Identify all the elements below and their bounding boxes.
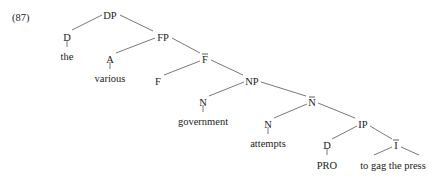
tree-node-a: A <box>106 54 114 65</box>
tree-edge <box>332 126 357 139</box>
tree-edge <box>172 38 200 53</box>
example-number: (87) <box>12 12 30 24</box>
tree-node-ip: IP <box>358 119 367 130</box>
tree-node-fbar: F <box>202 54 208 65</box>
tree-edge <box>401 147 419 155</box>
tree-edge <box>164 61 200 75</box>
tree-node-n1: N <box>199 97 207 108</box>
tree-edge <box>72 15 102 30</box>
tree-edge <box>209 82 244 96</box>
tree-terminal: attempts <box>250 138 286 149</box>
tree-edge <box>318 103 355 118</box>
tree-node-f: F <box>155 76 161 87</box>
tree-edges <box>67 15 419 155</box>
tree-node-ibar: I <box>394 140 398 151</box>
tree-edge <box>211 60 243 75</box>
tree-node-d2: D <box>323 140 331 151</box>
syntax-tree: (87) DPDtheFPAvariousFFNPNgovernmentNNat… <box>0 0 442 180</box>
tree-edge <box>116 38 155 53</box>
tree-node-dp: DP <box>103 10 117 21</box>
tree-edge <box>374 147 392 155</box>
tree-terminal: various <box>95 73 126 84</box>
tree-node-np: NP <box>245 76 259 87</box>
tree-edge <box>120 15 153 31</box>
tree-terminal: the <box>61 51 74 62</box>
tree-terminal: government <box>178 116 228 127</box>
tree-node-fp: FP <box>157 32 169 43</box>
tree-node-nbar: N <box>308 97 316 108</box>
tree-terminal: to gag the press <box>360 160 426 171</box>
tree-nodes: DPDtheFPAvariousFFNPNgovernmentNNattempt… <box>61 10 426 171</box>
tree-node-n2: N <box>264 119 272 130</box>
tree-edge <box>274 104 307 118</box>
tree-terminal: PRO <box>317 160 338 171</box>
tree-node-d1: D <box>63 32 71 43</box>
tree-edge <box>261 82 306 96</box>
tree-edge <box>370 126 392 139</box>
